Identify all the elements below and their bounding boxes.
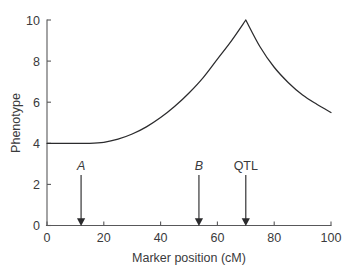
y-tick-label-10: 10: [26, 14, 40, 28]
y-tick-label-6: 6: [33, 96, 40, 110]
chart-figure: 0246810 020406080100 Phenotype Marker po…: [0, 0, 357, 270]
annotation-label-qtl: QTL: [234, 159, 258, 173]
y-tick-label-4: 4: [33, 137, 40, 151]
x-tick-label-60: 60: [210, 231, 224, 245]
y-tick-label-8: 8: [33, 55, 40, 69]
x-tick-label-20: 20: [97, 231, 111, 245]
x-tick-label-80: 80: [267, 231, 281, 245]
y-tick-label-0: 0: [33, 219, 40, 233]
phenotype-vs-marker-position-chart: 0246810 020406080100 Phenotype Marker po…: [0, 0, 357, 270]
annotation-label-a: A: [76, 159, 85, 173]
x-tick-label-0: 0: [44, 231, 51, 245]
x-tick-label-100: 100: [321, 231, 342, 245]
y-axis-title: Phenotype: [9, 93, 23, 153]
annotation-label-b: B: [195, 159, 203, 173]
chart-background: [0, 0, 357, 270]
x-tick-label-40: 40: [154, 231, 168, 245]
x-axis-title: Marker position (cM): [132, 251, 246, 265]
y-tick-label-2: 2: [33, 178, 40, 192]
